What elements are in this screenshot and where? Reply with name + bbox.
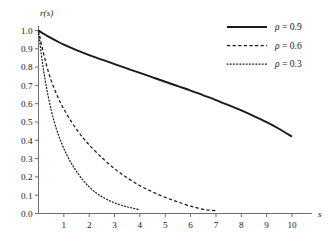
x-tick-label: 2	[87, 220, 92, 230]
x-tick-label: 5	[163, 220, 168, 230]
x-tick-label: 9	[264, 220, 269, 230]
series-line-dotted	[39, 31, 140, 210]
y-tick-label: 0.4	[21, 136, 33, 146]
legend-label: ρ = 0.3	[274, 58, 302, 69]
x-axis-ticks	[64, 214, 292, 218]
y-tick-label: 0.3	[21, 154, 33, 164]
series-line-solid	[39, 31, 293, 137]
x-axis-title: s	[318, 209, 322, 219]
y-tick-label: 0.5	[21, 117, 33, 127]
y-axis-tick-labels: 0.00.10.20.30.40.50.60.70.80.91.0	[21, 26, 33, 219]
legend-label: ρ = 0.6	[274, 40, 302, 51]
chart-series-group	[39, 31, 293, 211]
y-axis-title: r(s)	[40, 8, 53, 18]
x-tick-label: 6	[188, 220, 193, 230]
legend-label: ρ = 0.9	[274, 21, 302, 32]
y-tick-label: 0.2	[21, 172, 33, 182]
y-tick-label: 0.6	[21, 99, 33, 109]
y-tick-label: 0.8	[21, 62, 33, 72]
y-tick-label: 1.0	[21, 26, 33, 36]
y-tick-label: 0.7	[21, 81, 33, 91]
x-tick-label: 1	[62, 220, 67, 230]
chart-svg: 0.00.10.20.30.40.50.60.70.80.91.0 123456…	[0, 0, 330, 243]
y-tick-label: 0.0	[21, 209, 33, 219]
x-tick-label: 3	[112, 220, 117, 230]
x-tick-label: 8	[239, 220, 244, 230]
y-tick-label: 0.1	[21, 191, 33, 201]
x-tick-label: 4	[138, 220, 143, 230]
x-axis-tick-labels: 12345678910	[62, 220, 297, 230]
chart-legend: ρ = 0.9ρ = 0.6ρ = 0.3	[227, 21, 302, 69]
chart-figure: 0.00.10.20.30.40.50.60.70.80.91.0 123456…	[0, 0, 330, 243]
y-tick-label: 0.9	[21, 44, 33, 54]
y-axis-ticks	[35, 31, 39, 214]
x-tick-label: 7	[214, 220, 219, 230]
x-tick-label: 10	[287, 220, 297, 230]
series-line-dashed	[39, 31, 216, 211]
